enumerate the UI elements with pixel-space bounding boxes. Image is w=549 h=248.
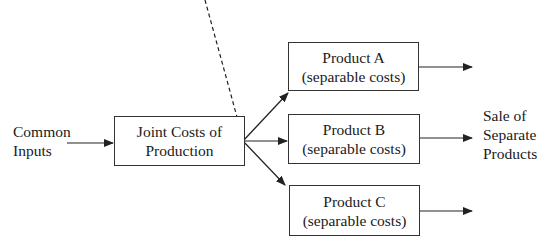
product-b-title: Product B bbox=[323, 120, 385, 139]
joint-costs-box: Joint Costs of Production bbox=[114, 116, 245, 166]
product-a-title: Product A bbox=[322, 48, 384, 67]
product-a-box: Product A (separable costs) bbox=[288, 42, 419, 91]
sale-label-line1: Sale of bbox=[483, 106, 537, 125]
product-c-title: Product C bbox=[323, 192, 385, 211]
product-b-box: Product B (separable costs) bbox=[288, 114, 420, 164]
branch-arrow-c bbox=[243, 141, 285, 185]
joint-costs-line1: Joint Costs of bbox=[137, 122, 222, 141]
common-inputs-line2: Inputs bbox=[13, 141, 71, 160]
product-b-subtitle: (separable costs) bbox=[302, 139, 406, 158]
joint-costs-line2: Production bbox=[145, 141, 213, 160]
dashed-arrow bbox=[205, 0, 240, 128]
sale-label-line3: Products bbox=[483, 144, 537, 163]
sale-label-line2: Separate bbox=[483, 125, 537, 144]
product-c-box: Product C (separable costs) bbox=[289, 185, 420, 236]
product-a-subtitle: (separable costs) bbox=[302, 67, 406, 86]
common-inputs-line1: Common bbox=[13, 122, 71, 141]
common-inputs-label: Common Inputs bbox=[13, 122, 71, 160]
sale-of-products-label: Sale of Separate Products bbox=[483, 106, 537, 163]
product-c-subtitle: (separable costs) bbox=[303, 211, 407, 230]
branch-arrow-a bbox=[243, 93, 288, 141]
connector-layer bbox=[0, 0, 549, 248]
